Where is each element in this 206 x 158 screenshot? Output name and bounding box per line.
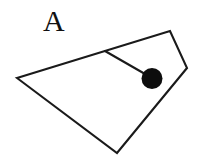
quadrilateral-outline [17, 31, 187, 153]
filled-node [142, 68, 163, 89]
figure-drawing: A [0, 0, 206, 158]
panel-label: A [43, 4, 65, 37]
figure-canvas: A [0, 0, 206, 158]
